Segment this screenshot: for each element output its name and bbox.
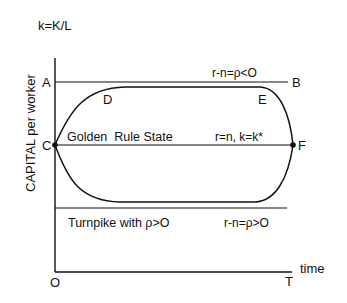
turnpike-label: Turnpike with ρ>O xyxy=(68,216,170,230)
point-c-label: C xyxy=(42,138,51,153)
point-a-label: A xyxy=(42,75,51,90)
golden-rule-condition: r=n, k=k* xyxy=(215,130,263,144)
turnpike-diagram: k=K/L CAPITAL per worker A B C D E F r-n… xyxy=(0,0,347,303)
golden-rule-label: Golden Rule State xyxy=(67,130,173,144)
x-axis-label: time xyxy=(300,261,325,276)
y-axis-top-label: k=K/L xyxy=(38,18,72,33)
y-axis-title: CAPITAL per worker xyxy=(23,74,38,192)
lower-line-annotation: r-n=ρ>O xyxy=(224,216,269,230)
point-c-dot xyxy=(52,142,58,148)
point-b-label: B xyxy=(292,75,301,90)
point-d-label: D xyxy=(103,92,112,107)
origin-label: O xyxy=(50,275,60,290)
point-f-label: F xyxy=(298,138,306,153)
end-time-label: T xyxy=(285,274,293,289)
upper-line-annotation: r-n=ρ<O xyxy=(212,66,257,80)
point-e-label: E xyxy=(258,92,267,107)
lower-trajectory xyxy=(55,145,293,202)
point-f-dot xyxy=(290,142,296,148)
